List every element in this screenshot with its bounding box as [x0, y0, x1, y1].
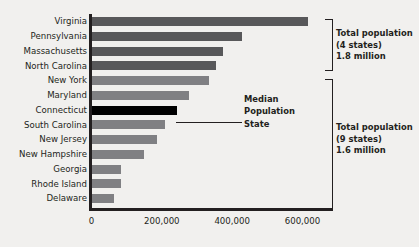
category-label: Delaware: [0, 193, 87, 203]
bar: [92, 91, 189, 100]
bar-chart: VirginiaPennsylvaniaMassachusettsNorth C…: [0, 0, 419, 247]
x-tick-label: 400,000: [192, 216, 272, 226]
bar: [92, 150, 144, 159]
category-label: Maryland: [0, 90, 87, 100]
annotation-median-line-2: Population: [244, 105, 295, 117]
category-label: North Carolina: [0, 61, 87, 71]
bar: [92, 165, 121, 174]
bar: [92, 194, 115, 203]
category-label: Georgia: [0, 164, 87, 174]
bracket-bottom-group: [325, 79, 333, 210]
annotation-bottom-line-3: 1.6 million: [336, 145, 413, 157]
category-label: New Hampshire: [0, 149, 87, 159]
category-label: Massachusetts: [0, 46, 87, 56]
bar: [92, 135, 157, 144]
bar: [92, 76, 209, 85]
bracket-top-group: [325, 19, 333, 71]
category-label: New Jersey: [0, 134, 87, 144]
annotation-bottom-line-2: (9 states): [336, 134, 413, 146]
median-leader-line: [176, 122, 242, 123]
bar: [92, 32, 242, 41]
category-label: Connecticut: [0, 105, 87, 115]
bar: [92, 120, 165, 129]
annotation-bottom-line-1: Total population: [336, 122, 413, 134]
category-label: Pennsylvania: [0, 31, 87, 41]
bar: [92, 47, 224, 56]
category-label: Virginia: [0, 16, 87, 26]
x-tick-label: 200,000: [122, 216, 202, 226]
x-axis-line: [89, 208, 333, 211]
category-label: New York: [0, 75, 87, 85]
category-label: South Carolina: [0, 120, 87, 130]
annotation-top-line-2: (4 states): [336, 40, 413, 52]
bar: [92, 17, 309, 26]
annotation-bottom-group: Total population (9 states) 1.6 million: [336, 122, 413, 157]
category-label: Rhode Island: [0, 179, 87, 189]
bar: [92, 106, 177, 115]
x-tick-label: 0: [52, 216, 132, 226]
annotation-top-line-3: 1.8 million: [336, 51, 413, 63]
bar: [92, 61, 216, 70]
annotation-top-group: Total population (4 states) 1.8 million: [336, 28, 413, 63]
bar: [92, 179, 121, 188]
annotation-top-line-1: Total population: [336, 28, 413, 40]
x-tick-label: 600,000: [263, 216, 343, 226]
annotation-median-line-1: Median: [244, 93, 295, 105]
annotation-median-line-3: State: [244, 118, 295, 130]
annotation-median-callout: Median Population State: [244, 93, 295, 130]
